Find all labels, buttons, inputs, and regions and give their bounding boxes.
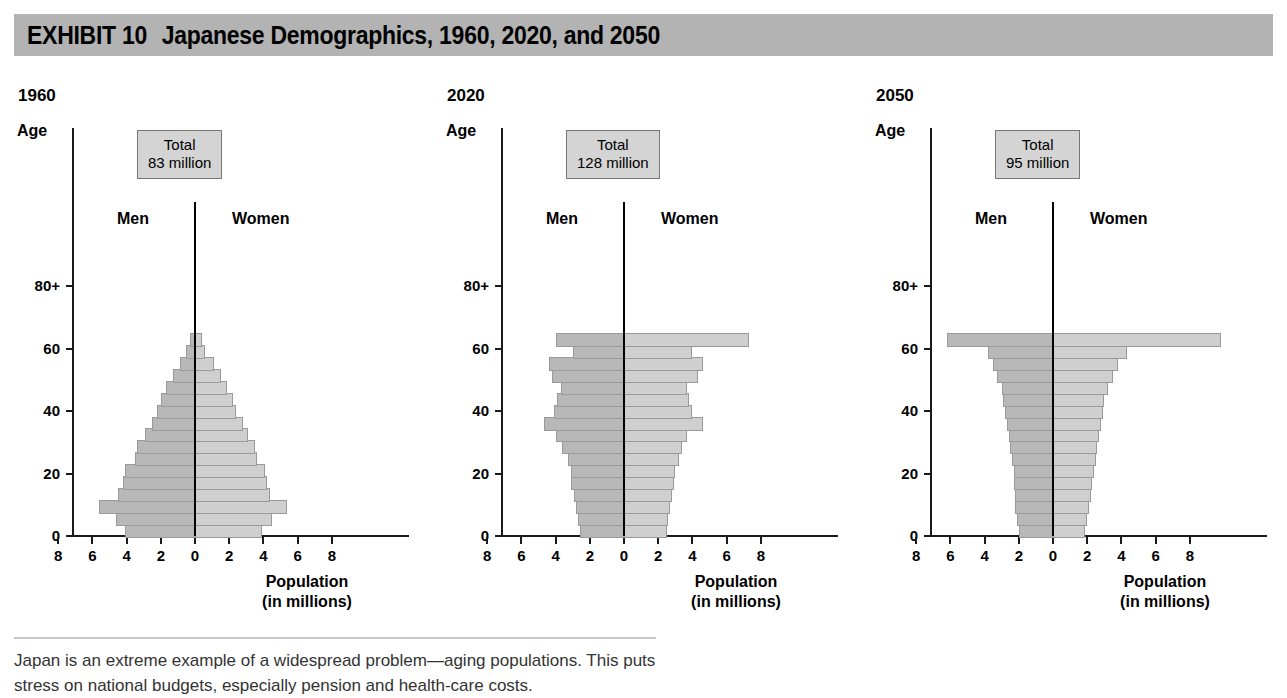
caption-line-1: Japan is an extreme example of a widespr…	[14, 648, 1014, 673]
bar-women	[1053, 464, 1094, 478]
x-axis-tick	[297, 537, 299, 544]
x-axis-tick	[726, 537, 728, 544]
x-axis-tick-label: 8	[1178, 547, 1202, 564]
bar-men	[180, 357, 195, 371]
bar-women	[195, 405, 236, 419]
y-axis-tick	[495, 285, 502, 287]
y-axis-tick	[924, 410, 931, 412]
y-axis-tick-label: 80+	[437, 277, 489, 294]
x-axis-tick-label: 4	[680, 547, 704, 564]
y-axis-tick	[924, 285, 931, 287]
x-axis-tick	[691, 537, 693, 544]
total-label: Total	[577, 136, 649, 154]
pyramid-panel-2020: 2020Age020406080+864202468Total128 milli…	[429, 60, 858, 630]
y-axis-tick	[66, 348, 73, 350]
bar-men	[576, 500, 624, 514]
footer-divider	[14, 637, 656, 639]
bar-women	[1053, 500, 1089, 514]
bar-women	[1053, 476, 1092, 490]
x-axis-tick-label: 6	[715, 547, 739, 564]
bar-men	[549, 357, 624, 371]
bar-men	[561, 381, 624, 395]
y-axis-tick-label: 60	[866, 340, 918, 357]
women-legend-label: Women	[1090, 210, 1147, 228]
bar-women	[1053, 357, 1118, 371]
bar-men	[573, 345, 624, 359]
panel-year-label: 1960	[18, 86, 56, 106]
bar-women	[624, 440, 682, 454]
x-axis-tick	[915, 537, 917, 544]
y-axis-tick-label: 20	[437, 465, 489, 482]
x-axis-tick	[984, 537, 986, 544]
x-axis-tick	[1086, 537, 1088, 544]
bar-women	[1053, 345, 1127, 359]
x-axis-tick-label: 2	[149, 547, 173, 564]
y-axis-tick	[924, 348, 931, 350]
y-axis-tick-label: 60	[437, 340, 489, 357]
y-axis-tick-label: 80+	[8, 277, 60, 294]
bar-men	[544, 417, 624, 431]
zero-center-line	[194, 202, 196, 536]
y-axis-tick-label: 80+	[866, 277, 918, 294]
x-axis-tick-label: 2	[1075, 547, 1099, 564]
y-axis-tick-label: 0	[8, 527, 60, 544]
x-axis-tick	[623, 537, 625, 544]
bar-men	[1014, 476, 1053, 490]
bar-men	[571, 476, 624, 490]
bar-men	[1002, 381, 1053, 395]
bar-men	[993, 357, 1053, 371]
y-axis-title: Age	[875, 122, 905, 140]
x-axis-title-line-2: (in millions)	[1065, 592, 1265, 612]
bar-women	[624, 417, 703, 431]
exhibit-header-text: EXHIBIT 10Japanese Demographics, 1960, 2…	[27, 21, 660, 50]
bar-men	[580, 524, 624, 538]
y-axis-tick-label: 20	[866, 465, 918, 482]
x-axis-tick	[91, 537, 93, 544]
bar-women	[195, 476, 267, 490]
x-axis-tick-label: 6	[1144, 547, 1168, 564]
y-axis-tick	[495, 348, 502, 350]
exhibit-caption: Japan is an extreme example of a widespr…	[14, 648, 1014, 698]
x-axis-tick-label: 0	[1041, 547, 1065, 564]
bar-women	[624, 500, 670, 514]
exhibit-header-band: EXHIBIT 10Japanese Demographics, 1960, 2…	[14, 14, 1273, 56]
y-axis-tick-label: 0	[437, 527, 489, 544]
bar-women	[1053, 405, 1103, 419]
bar-women	[624, 464, 675, 478]
bar-men	[562, 440, 624, 454]
x-axis-tick-label: 4	[251, 547, 275, 564]
x-axis-tick-label: 6	[286, 547, 310, 564]
x-axis-tick	[1018, 537, 1020, 544]
pyramid-panels: 1960Age020406080+864202468Total83 millio…	[0, 60, 1287, 630]
bar-women	[195, 381, 227, 395]
total-label: Total	[148, 136, 211, 154]
x-axis-line	[501, 535, 838, 537]
x-axis-tick	[657, 537, 659, 544]
bar-women	[1053, 381, 1108, 395]
bar-men	[137, 440, 195, 454]
y-axis-tick-label: 40	[437, 402, 489, 419]
total-value: 83 million	[148, 154, 211, 172]
y-axis-tick	[66, 285, 73, 287]
x-axis-tick-label: 8	[46, 547, 70, 564]
total-value: 128 million	[577, 154, 649, 172]
bar-women	[624, 345, 692, 359]
bar-men	[99, 500, 195, 514]
x-axis-tick-label: 0	[183, 547, 207, 564]
bar-women	[624, 524, 667, 538]
pyramid-panel-2050: 2050Age020406080+864202468Total95 millio…	[858, 60, 1287, 630]
x-axis-tick-label: 2	[646, 547, 670, 564]
bar-women	[195, 464, 265, 478]
bar-women	[1053, 440, 1097, 454]
zero-center-line	[1052, 202, 1054, 536]
bar-women	[195, 524, 262, 538]
x-axis-tick-label: 4	[544, 547, 568, 564]
y-axis-tick-label: 40	[866, 402, 918, 419]
x-axis-line	[930, 535, 1267, 537]
exhibit-number: EXHIBIT 10	[27, 21, 147, 49]
bar-women	[195, 500, 287, 514]
x-axis-title-line-1: Population	[636, 572, 836, 592]
exhibit-title: Japanese Demographics, 1960, 2020, and 2…	[162, 21, 660, 49]
x-axis-tick	[520, 537, 522, 544]
